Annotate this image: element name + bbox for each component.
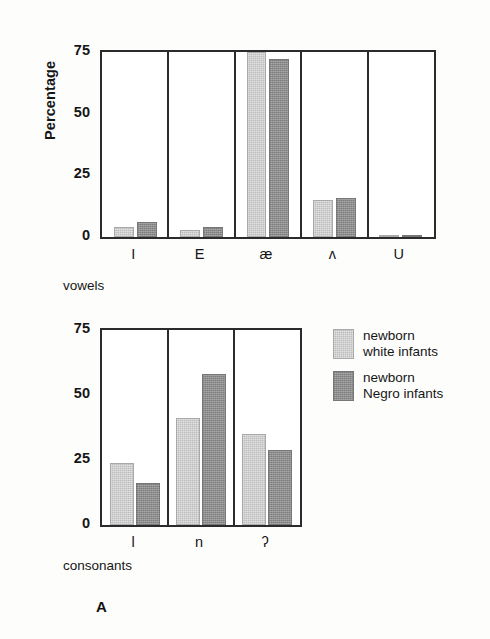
- x-axis-caption-vowels: vowels: [63, 278, 104, 293]
- x-tick-label: E: [195, 246, 205, 262]
- bar-vowels-3-1: [336, 198, 356, 237]
- y-tick-label: 75: [56, 42, 90, 58]
- figure-panel-a: Percentage 0255075 IEæʌU vowels 0255075 …: [0, 0, 490, 639]
- legend-item: newbornwhite infants: [333, 328, 443, 359]
- plot-area-consonants: [100, 328, 302, 527]
- group-separator: [167, 330, 169, 525]
- group-separator: [300, 52, 302, 237]
- legend-swatch-dark: [333, 371, 354, 401]
- x-tick-label: æ: [260, 246, 273, 262]
- chart-vowels: Percentage 0255075 IEæʌU vowels: [0, 0, 490, 300]
- legend-swatch-light: [333, 329, 354, 359]
- x-axis-caption-consonants: consonants: [63, 558, 132, 573]
- y-tick-label: 25: [56, 165, 90, 181]
- group-separator: [167, 52, 169, 237]
- legend-label: newbornNegro infants: [363, 370, 443, 401]
- bar-consonants-2-0: [242, 434, 266, 525]
- legend-label-line1: newborn: [363, 370, 443, 386]
- group-separator: [367, 52, 369, 237]
- group-separator: [233, 330, 235, 525]
- legend-label-line1: newborn: [363, 328, 438, 344]
- group-separator: [234, 52, 236, 237]
- y-tick-label: 50: [56, 385, 90, 401]
- bar-vowels-4-0: [379, 235, 399, 237]
- bar-consonants-0-0: [110, 463, 134, 525]
- y-tick-label: 0: [56, 227, 90, 243]
- x-tick-label: n: [195, 534, 203, 550]
- bar-vowels-4-1: [402, 235, 422, 237]
- bar-vowels-0-1: [137, 222, 157, 237]
- bar-vowels-2-1: [269, 59, 289, 237]
- legend-label-line2: Negro infants: [363, 386, 443, 402]
- x-tick-label: ʌ: [329, 246, 336, 262]
- plot-area-vowels: [100, 50, 436, 239]
- y-tick-label: 75: [56, 320, 90, 336]
- x-tick-label: U: [394, 246, 404, 262]
- bar-consonants-2-1: [268, 450, 292, 525]
- bar-consonants-0-1: [136, 483, 160, 525]
- legend: newbornwhite infantsnewbornNegro infants: [333, 328, 443, 412]
- bar-vowels-1-1: [203, 227, 223, 237]
- legend-label: newbornwhite infants: [363, 328, 438, 359]
- y-tick-label: 25: [56, 450, 90, 466]
- x-tick-label: l: [131, 534, 134, 550]
- legend-item: newbornNegro infants: [333, 370, 443, 401]
- x-tick-label: ʔ: [261, 534, 268, 550]
- bar-consonants-1-0: [176, 418, 200, 525]
- bar-vowels-2-0: [247, 52, 267, 237]
- legend-label-line2: white infants: [363, 344, 438, 360]
- bar-vowels-3-0: [313, 200, 333, 237]
- bar-vowels-0-0: [114, 227, 134, 237]
- x-tick-label: I: [131, 246, 135, 262]
- y-tick-label: 50: [56, 104, 90, 120]
- y-axis-title-percentage: Percentage: [42, 61, 58, 140]
- panel-letter: A: [96, 598, 107, 615]
- bar-vowels-1-0: [180, 230, 200, 237]
- y-tick-label: 0: [56, 515, 90, 531]
- bar-consonants-1-1: [202, 374, 226, 525]
